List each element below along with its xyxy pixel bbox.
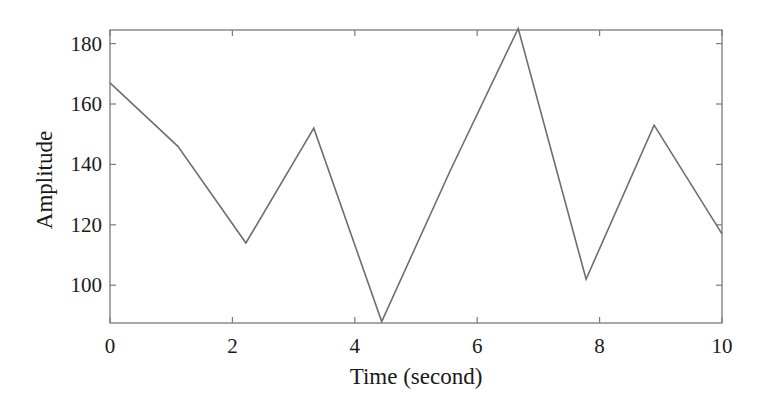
x-tick-label: 10 bbox=[712, 334, 733, 358]
axes-box bbox=[110, 30, 722, 323]
x-tick-label: 0 bbox=[105, 334, 116, 358]
data-series bbox=[110, 29, 722, 322]
y-tick-label: 120 bbox=[71, 213, 103, 237]
series-line bbox=[110, 29, 722, 322]
x-tick-label: 4 bbox=[350, 334, 361, 358]
x-tick-label: 8 bbox=[594, 334, 605, 358]
y-tick-label: 100 bbox=[71, 273, 103, 297]
y-tick-label: 180 bbox=[71, 32, 103, 56]
y-tick-label: 140 bbox=[71, 152, 103, 176]
line-chart: 100120140160180 0246810 Time (second) Am… bbox=[0, 0, 763, 409]
x-tick-label: 6 bbox=[472, 334, 483, 358]
x-axis-label: Time (second) bbox=[350, 364, 483, 389]
y-axis-label: Amplitude bbox=[32, 131, 57, 229]
x-tick-label: 2 bbox=[227, 334, 238, 358]
plot-frame bbox=[110, 30, 722, 323]
x-axis-ticks: 0246810 bbox=[105, 30, 733, 358]
y-tick-label: 160 bbox=[71, 92, 103, 116]
y-axis-ticks: 100120140160180 bbox=[71, 32, 723, 298]
